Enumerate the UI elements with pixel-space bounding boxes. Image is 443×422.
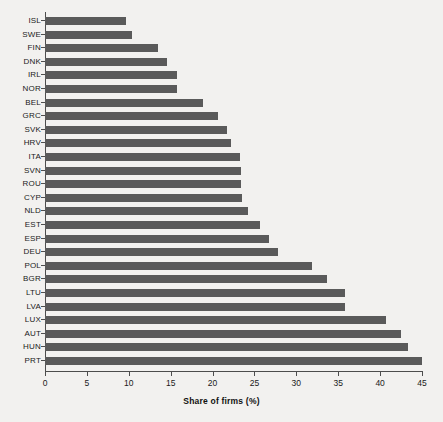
bar-row: FIN xyxy=(45,41,422,55)
y-axis-tick-label: NLD xyxy=(3,204,41,218)
bar xyxy=(45,85,177,93)
x-axis-tick-label: 45 xyxy=(407,378,437,388)
bar-row: LTU xyxy=(45,286,422,300)
bar-row: DEU xyxy=(45,245,422,259)
y-axis-tick-label: CYP xyxy=(3,191,41,205)
y-axis-tick-label: HUN xyxy=(3,340,41,354)
x-axis-tick-label: 15 xyxy=(156,378,186,388)
bar-row: NLD xyxy=(45,204,422,218)
y-axis-tick-label: POL xyxy=(3,259,41,273)
bar xyxy=(45,126,227,134)
x-axis-tick-mark xyxy=(45,372,46,376)
bar-chart: ISLSWEFINDNKIRLNORBELGRCSVKHRVITASVNROUC… xyxy=(0,0,443,422)
x-axis-tick-label: 20 xyxy=(198,378,228,388)
y-axis-tick-label: GRC xyxy=(3,109,41,123)
y-axis-tick-label: SVN xyxy=(3,164,41,178)
bar-row: ESP xyxy=(45,232,422,246)
y-axis-tick-label: ISL xyxy=(3,14,41,28)
y-axis-tick-label: PRT xyxy=(3,354,41,368)
bar-row: POL xyxy=(45,259,422,273)
y-axis-tick-label: SWE xyxy=(3,28,41,42)
bar-row: SVK xyxy=(45,123,422,137)
y-axis-tick-label: HRV xyxy=(3,136,41,150)
bar xyxy=(45,153,240,161)
bar-row: BEL xyxy=(45,96,422,110)
bar xyxy=(45,71,177,79)
bar xyxy=(45,207,248,215)
x-axis-tick-mark xyxy=(380,372,381,376)
bar xyxy=(45,289,345,297)
bar-row: ISL xyxy=(45,14,422,28)
x-axis-title: Share of firms (%) xyxy=(0,396,443,406)
bar xyxy=(45,17,126,25)
x-axis-tick-mark xyxy=(422,372,423,376)
bar xyxy=(45,194,242,202)
x-axis-tick-label: 10 xyxy=(114,378,144,388)
bar xyxy=(45,316,386,324)
bar-row: HUN xyxy=(45,340,422,354)
bar xyxy=(45,248,278,256)
y-axis-tick-label: FIN xyxy=(3,41,41,55)
y-axis-tick-label: ITA xyxy=(3,150,41,164)
bar-row: SVN xyxy=(45,164,422,178)
y-axis-tick-label: BEL xyxy=(3,96,41,110)
bar-row: EST xyxy=(45,218,422,232)
x-axis-tick-label: 25 xyxy=(239,378,269,388)
bar-row: CYP xyxy=(45,191,422,205)
y-axis-tick-label: LUX xyxy=(3,313,41,327)
y-axis-tick-label: SVK xyxy=(3,123,41,137)
bar xyxy=(45,139,231,147)
x-axis-tick-label: 30 xyxy=(281,378,311,388)
x-axis-tick-mark xyxy=(213,372,214,376)
bar xyxy=(45,58,167,66)
bar xyxy=(45,235,269,243)
bar-row: NOR xyxy=(45,82,422,96)
y-axis-tick-label: EST xyxy=(3,218,41,232)
bar xyxy=(45,221,260,229)
bar-row: BGR xyxy=(45,272,422,286)
x-axis-tick-mark xyxy=(296,372,297,376)
x-axis-tick-mark xyxy=(87,372,88,376)
y-axis-tick-label: BGR xyxy=(3,272,41,286)
bar xyxy=(45,31,132,39)
plot-area: ISLSWEFINDNKIRLNORBELGRCSVKHRVITASVNROUC… xyxy=(45,14,422,368)
bar xyxy=(45,343,408,351)
y-axis-tick-label: ESP xyxy=(3,232,41,246)
bar-row: SWE xyxy=(45,28,422,42)
bar xyxy=(45,167,241,175)
bar-row: IRL xyxy=(45,68,422,82)
bar xyxy=(45,99,203,107)
bar xyxy=(45,303,345,311)
bar-row: LUX xyxy=(45,313,422,327)
y-axis-tick-label: NOR xyxy=(3,82,41,96)
y-axis-tick-label: LTU xyxy=(3,286,41,300)
bar xyxy=(45,262,312,270)
x-axis-tick-mark xyxy=(171,372,172,376)
bar xyxy=(45,357,422,365)
x-axis-tick-mark xyxy=(254,372,255,376)
bar xyxy=(45,44,158,52)
x-axis-tick-mark xyxy=(338,372,339,376)
bar-row: HRV xyxy=(45,136,422,150)
x-axis-tick-label: 5 xyxy=(72,378,102,388)
y-axis-tick-label: ROU xyxy=(3,177,41,191)
x-axis-tick-label: 0 xyxy=(30,378,60,388)
bar xyxy=(45,112,218,120)
bar-row: LVA xyxy=(45,300,422,314)
bar-row: GRC xyxy=(45,109,422,123)
bar-row: DNK xyxy=(45,55,422,69)
y-axis-tick-label: DEU xyxy=(3,245,41,259)
bar xyxy=(45,275,327,283)
y-axis-tick-label: AUT xyxy=(3,327,41,341)
bar-row: PRT xyxy=(45,354,422,368)
bar-row: ITA xyxy=(45,150,422,164)
bar-row: AUT xyxy=(45,327,422,341)
bar xyxy=(45,180,241,188)
y-axis-tick-label: DNK xyxy=(3,55,41,69)
x-axis-tick-label: 35 xyxy=(323,378,353,388)
y-axis-tick-label: IRL xyxy=(3,68,41,82)
bar-row: ROU xyxy=(45,177,422,191)
y-axis-tick-label: LVA xyxy=(3,300,41,314)
x-axis-line xyxy=(45,371,423,372)
x-axis-tick-mark xyxy=(129,372,130,376)
